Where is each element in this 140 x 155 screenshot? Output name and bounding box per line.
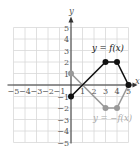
y-tick-label: 4 — [64, 35, 69, 44]
y-tick-label: −4 — [57, 127, 69, 136]
f-point — [114, 59, 120, 65]
x-axis-label: x — [135, 76, 140, 86]
y-tick-label: −1 — [57, 93, 69, 102]
f-point — [68, 94, 74, 100]
x-tick-label: 3 — [103, 87, 108, 96]
y-tick-label: −3 — [57, 116, 69, 125]
y-axis-label: y — [68, 6, 74, 16]
y-tick-label: −2 — [57, 104, 69, 113]
axes — [8, 17, 138, 144]
neg-f-point — [68, 71, 74, 77]
x-tick-label: −3 — [31, 87, 43, 96]
x-tick-label: −4 — [19, 87, 31, 96]
y-tick-label: −5 — [57, 139, 69, 148]
x-tick-label: 1 — [80, 87, 85, 96]
x-tick-label: −2 — [42, 87, 54, 96]
y-tick-label: 5 — [64, 24, 69, 33]
neg-f-point — [103, 105, 109, 111]
x-tick-label: 4 — [114, 87, 119, 96]
f-label: y = f(x) — [91, 43, 124, 53]
y-tick-label: 3 — [64, 47, 69, 56]
y-tick-label: 2 — [64, 58, 69, 67]
neg-f-label: y = −f(x) — [92, 113, 132, 123]
y-axis-arrow-icon — [69, 17, 74, 23]
function-graph: −5−4−3−2−11234554321−1−2−3−4−5 y = f(x) … — [0, 0, 140, 155]
f-point — [126, 82, 132, 88]
f-point — [103, 59, 109, 65]
x-tick-label: −5 — [8, 87, 20, 96]
neg-f-point — [114, 105, 120, 111]
